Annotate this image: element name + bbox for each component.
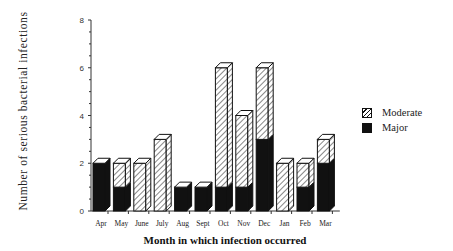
solid-swatch-icon — [362, 123, 372, 133]
svg-text:8: 8 — [80, 16, 85, 25]
x-tick-label: June — [135, 219, 149, 228]
x-tick-label: Mar — [319, 219, 332, 228]
bars-group — [93, 63, 334, 211]
bar-sept — [195, 182, 212, 211]
x-tick-label: Sept — [196, 219, 210, 228]
bar-june — [134, 158, 151, 211]
x-tick-label: Nov — [237, 219, 250, 228]
x-tick-label: July — [156, 219, 169, 228]
x-tick-label: Dec — [258, 219, 271, 228]
hatched-swatch-icon — [362, 108, 372, 118]
legend-label-moderate: Moderate — [382, 107, 422, 118]
x-tick-label: Feb — [299, 219, 311, 228]
x-tick-label: May — [115, 219, 129, 228]
bar-apr — [93, 158, 110, 211]
x-tick-label: Aug — [176, 219, 189, 228]
bar-aug — [175, 182, 192, 211]
y-axis-title: Number of serious bacterial infections — [14, 0, 32, 222]
y-axis-title-text: Number of serious bacterial infections — [17, 11, 29, 210]
bar-nov — [236, 111, 253, 212]
legend-item-major: Major — [362, 120, 422, 135]
bar-dec — [256, 63, 273, 211]
svg-text:2: 2 — [80, 159, 85, 168]
svg-text:0: 0 — [80, 207, 85, 216]
bar-july — [154, 134, 171, 211]
bar-oct — [215, 63, 232, 211]
x-axis-title: Month in which infection occurred — [120, 234, 330, 246]
bar-may — [113, 158, 130, 211]
bar-jan — [277, 158, 294, 211]
x-tick-label: Oct — [218, 219, 230, 228]
legend-item-moderate: Moderate — [362, 105, 422, 120]
svg-text:6: 6 — [80, 64, 85, 73]
bar-mar — [317, 134, 334, 211]
bar-feb — [297, 158, 314, 211]
legend-label-major: Major — [382, 122, 408, 133]
x-tick-label: Apr — [95, 219, 107, 228]
x-axis: AprMayJuneJulyAugSeptOctNovDecJanFebMar — [95, 211, 332, 228]
x-tick-label: Jan — [280, 219, 290, 228]
legend: Moderate Major — [362, 105, 422, 135]
svg-text:4: 4 — [80, 112, 85, 121]
